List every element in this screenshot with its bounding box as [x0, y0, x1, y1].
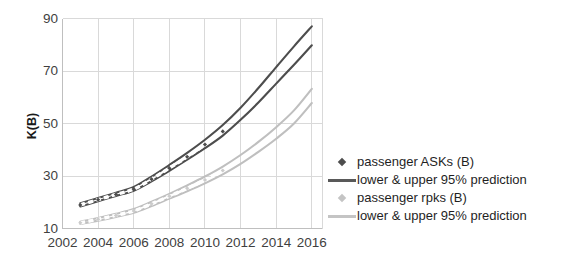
legend-item-label: lower & upper 95% prediction: [357, 171, 527, 189]
x-tick-label: 2010: [185, 236, 225, 250]
x-tick-label: 2016: [292, 236, 332, 250]
legend-item[interactable]: passenger ASKs (B): [327, 153, 559, 171]
diamond-icon: [338, 158, 346, 166]
legend-item-label: lower & upper 95% prediction: [357, 207, 527, 225]
x-tick-label: 2004: [78, 236, 118, 250]
legend-item[interactable]: lower & upper 95% prediction: [327, 207, 559, 225]
legend-diamond-icon: [327, 189, 357, 207]
legend-diamond-icon: [327, 153, 357, 171]
diamond-icon: [338, 194, 346, 202]
x-tick-label: 2008: [149, 236, 189, 250]
legend-item[interactable]: passenger rpks (B): [327, 189, 559, 207]
legend-item[interactable]: lower & upper 95% prediction: [327, 171, 559, 189]
x-tick-label: 2012: [221, 236, 261, 250]
chart-figure: K(B) 1030507090 200220042006200820102012…: [0, 0, 564, 264]
x-tick-label: 2014: [256, 236, 296, 250]
line-icon: [328, 215, 356, 218]
line-icon: [328, 179, 356, 182]
x-tick-label: 2002: [43, 236, 83, 250]
legend-line-icon: [327, 207, 357, 225]
chart-legend: passenger ASKs (B)lower & upper 95% pred…: [327, 153, 559, 225]
legend-item-label: passenger rpks (B): [357, 189, 467, 207]
legend-line-icon: [327, 171, 357, 189]
legend-item-label: passenger ASKs (B): [357, 153, 474, 171]
x-tick-label: 2006: [114, 236, 154, 250]
